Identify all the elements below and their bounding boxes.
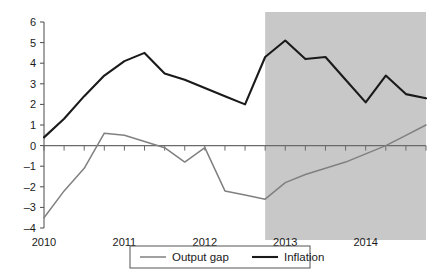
y-tick-label: 6 bbox=[30, 16, 36, 28]
x-tick-label: 2010 bbox=[32, 236, 56, 248]
chart-legend: Output gapInflation bbox=[130, 246, 324, 268]
x-tick-label: 2014 bbox=[353, 236, 377, 248]
y-axis: 6543210–1–2–3–4 bbox=[24, 16, 44, 234]
y-tick-label: 4 bbox=[30, 57, 36, 69]
y-tick-label: –3 bbox=[24, 201, 36, 213]
line-chart: 6543210–1–2–3–4 20102011201220132014 Out… bbox=[0, 0, 440, 277]
y-tick-label: 5 bbox=[30, 37, 36, 49]
y-tick-label: –2 bbox=[24, 181, 36, 193]
y-tick-label: 2 bbox=[30, 98, 36, 110]
chart-figure: 6543210–1–2–3–4 20102011201220132014 Out… bbox=[0, 0, 440, 277]
y-tick-label: 0 bbox=[30, 140, 36, 152]
y-tick-label: –4 bbox=[24, 222, 36, 234]
legend-label-inflation: Inflation bbox=[284, 251, 324, 263]
y-tick-label: –1 bbox=[24, 160, 36, 172]
legend-label-output-gap: Output gap bbox=[172, 251, 229, 263]
y-tick-label: 1 bbox=[30, 119, 36, 131]
forecast-shaded-region bbox=[265, 12, 426, 240]
y-tick-label: 3 bbox=[30, 78, 36, 90]
